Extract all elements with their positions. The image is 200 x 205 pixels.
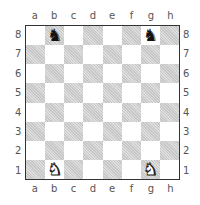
square-a5[interactable] [26,83,45,102]
square-d1[interactable] [83,160,102,179]
square-a3[interactable] [26,122,45,141]
square-b4[interactable] [45,103,64,122]
file-label-a-top: a [25,10,44,21]
file-label-b-bottom: b [44,183,63,194]
square-a6[interactable] [26,64,45,83]
square-c4[interactable] [64,103,83,122]
square-f8[interactable] [122,26,141,45]
file-label-f-top: f [122,10,141,21]
chess-board[interactable]: ♞♞♞♞ [25,25,180,180]
rank-label-5-right: 5 [183,83,189,102]
file-label-g-top: g [141,10,160,21]
square-d4[interactable] [83,103,102,122]
rank-label-6-right: 6 [183,64,189,83]
file-label-d-top: d [83,10,102,21]
rank-label-4-right: 4 [183,103,189,122]
file-label-e-top: e [103,10,122,21]
square-a4[interactable] [26,103,45,122]
square-g7[interactable] [141,45,160,64]
square-c3[interactable] [64,122,83,141]
rank-label-7-right: 7 [183,44,189,63]
square-e8[interactable] [103,26,122,45]
square-f5[interactable] [122,83,141,102]
square-h6[interactable] [160,64,179,83]
square-d8[interactable] [83,26,102,45]
square-a8[interactable] [26,26,45,45]
square-d5[interactable] [83,83,102,102]
square-b6[interactable] [45,64,64,83]
square-e4[interactable] [103,103,122,122]
square-g8[interactable]: ♞ [141,26,160,45]
square-e1[interactable] [103,160,122,179]
square-d6[interactable] [83,64,102,83]
square-g3[interactable] [141,122,160,141]
square-g2[interactable] [141,141,160,160]
square-b2[interactable] [45,141,64,160]
rank-label-1-left: 1 [15,161,21,180]
square-e5[interactable] [103,83,122,102]
rank-label-8-left: 8 [15,25,21,44]
rank-label-6-left: 6 [15,64,21,83]
square-a1[interactable] [26,160,45,179]
rank-label-8-right: 8 [183,25,189,44]
square-h5[interactable] [160,83,179,102]
square-e7[interactable] [103,45,122,64]
square-a7[interactable] [26,45,45,64]
square-h7[interactable] [160,45,179,64]
file-label-h-bottom: h [161,183,180,194]
file-label-g-bottom: g [141,183,160,194]
square-b8[interactable]: ♞ [45,26,64,45]
square-f4[interactable] [122,103,141,122]
square-c5[interactable] [64,83,83,102]
square-f1[interactable] [122,160,141,179]
square-f7[interactable] [122,45,141,64]
black-knight-icon[interactable]: ♞ [47,27,62,44]
square-h3[interactable] [160,122,179,141]
square-b1[interactable]: ♞ [45,160,64,179]
white-knight-icon[interactable]: ♞ [143,161,158,178]
file-label-d-bottom: d [83,183,102,194]
square-g5[interactable] [141,83,160,102]
square-d7[interactable] [83,45,102,64]
square-b5[interactable] [45,83,64,102]
file-label-h-top: h [161,10,180,21]
rank-label-2-right: 2 [183,141,189,160]
square-e3[interactable] [103,122,122,141]
square-h8[interactable] [160,26,179,45]
square-f3[interactable] [122,122,141,141]
square-c6[interactable] [64,64,83,83]
file-label-c-top: c [64,10,83,21]
square-c7[interactable] [64,45,83,64]
square-h4[interactable] [160,103,179,122]
square-b3[interactable] [45,122,64,141]
square-h1[interactable] [160,160,179,179]
square-g6[interactable] [141,64,160,83]
rank-label-1-right: 1 [183,161,189,180]
square-b7[interactable] [45,45,64,64]
square-h2[interactable] [160,141,179,160]
square-g1[interactable]: ♞ [141,160,160,179]
rank-label-2-left: 2 [15,141,21,160]
black-knight-icon[interactable]: ♞ [143,27,158,44]
square-c8[interactable] [64,26,83,45]
rank-label-3-left: 3 [15,122,21,141]
square-f2[interactable] [122,141,141,160]
rank-label-5-left: 5 [15,83,21,102]
file-label-f-bottom: f [122,183,141,194]
square-c2[interactable] [64,141,83,160]
square-f6[interactable] [122,64,141,83]
file-label-c-bottom: c [64,183,83,194]
square-e2[interactable] [103,141,122,160]
square-a2[interactable] [26,141,45,160]
square-c1[interactable] [64,160,83,179]
square-e6[interactable] [103,64,122,83]
rank-label-3-right: 3 [183,122,189,141]
square-g4[interactable] [141,103,160,122]
file-label-e-bottom: e [103,183,122,194]
rank-label-4-left: 4 [15,103,21,122]
square-d2[interactable] [83,141,102,160]
file-label-a-bottom: a [25,183,44,194]
square-d3[interactable] [83,122,102,141]
white-knight-icon[interactable]: ♞ [47,161,62,178]
file-label-b-top: b [44,10,63,21]
